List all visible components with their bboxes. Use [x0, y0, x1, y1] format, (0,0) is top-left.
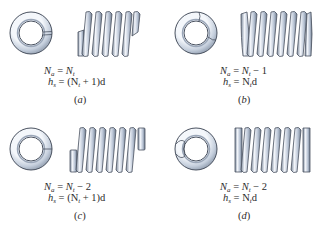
- symbol-n: N: [66, 181, 73, 192]
- formula-solid-height: hs = (Nt + 1)d: [48, 76, 105, 91]
- subscript: s: [53, 197, 56, 205]
- panel-a-plain-ends: Na = Nt hs = (Nt + 1)d (a): [0, 0, 165, 116]
- panel-c-squared-ends: Na = Nt − 2 hs = (Nt + 1)d (c): [0, 116, 165, 232]
- spring-side-view-plain-icon: [74, 10, 146, 58]
- caption-letter: b: [242, 94, 247, 105]
- panel-d-squared-ground-ends: Na = Nt − 2 hs = Ntd (d): [165, 116, 330, 232]
- caption-a: (a): [74, 94, 86, 105]
- formula-tail: − 2: [251, 181, 267, 192]
- symbol-n: N: [44, 181, 51, 192]
- subscript: s: [228, 81, 231, 89]
- subscript: s: [53, 81, 56, 89]
- caption-c: (c): [74, 210, 86, 221]
- spring-end-view-ring-icon: [173, 126, 219, 172]
- caption-b: (b): [238, 94, 250, 105]
- spring-side-view-squared-icon: [68, 126, 150, 174]
- subscript: s: [228, 197, 231, 205]
- caption-letter: a: [78, 94, 83, 105]
- formula-tail: + 1)d: [80, 76, 105, 87]
- formula-tail: − 2: [75, 181, 91, 192]
- spring-side-view-ground-icon: [239, 10, 315, 58]
- spring-end-view-ring-icon: [8, 10, 54, 56]
- caption-letter: c: [78, 210, 83, 221]
- formula-body: = N: [234, 192, 250, 203]
- symbol-n: N: [44, 65, 51, 76]
- formula-solid-height: hs = Ntd: [223, 76, 257, 91]
- spring-end-view-ring-icon: [8, 126, 54, 172]
- caption-letter: d: [242, 210, 247, 221]
- formula-body: = (N: [59, 76, 79, 87]
- symbol-n: N: [242, 65, 249, 76]
- formula-body: = (N: [59, 192, 79, 203]
- formula-solid-height: hs = Ntd: [223, 192, 257, 207]
- formula-body: = N: [234, 76, 250, 87]
- formula-tail: − 1: [251, 65, 267, 76]
- formula-tail: d: [252, 192, 257, 203]
- symbol-n: N: [242, 181, 249, 192]
- formula-tail: + 1)d: [80, 192, 105, 203]
- spring-side-view-squared-ground-icon: [233, 126, 315, 174]
- symbol-n: N: [220, 65, 227, 76]
- symbol-n: N: [66, 65, 73, 76]
- formula-tail: d: [252, 76, 257, 87]
- caption-d: (d): [238, 210, 250, 221]
- symbol-n: N: [220, 181, 227, 192]
- formula-solid-height: hs = (Nt + 1)d: [48, 192, 105, 207]
- panel-b-plain-ground-ends: Na = Nt − 1 hs = Ntd (b): [165, 0, 330, 116]
- spring-end-view-ring-icon: [173, 10, 219, 56]
